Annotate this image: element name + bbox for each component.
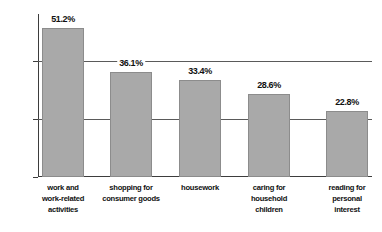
x-label-reading-line-3: interest: [316, 204, 378, 215]
bar-value-reading: 22.8%: [333, 97, 361, 107]
x-label-shopping-line-2: consumer goods: [93, 193, 169, 204]
bar-group-shopping[interactable]: 36.1%: [110, 72, 152, 177]
y-tick-mark-0: [33, 177, 38, 178]
x-label-reading-line-1: reading for: [316, 182, 378, 193]
bar-group-work[interactable]: 51.2%: [42, 28, 84, 177]
bar-value-housework: 33.4%: [186, 66, 214, 76]
bar-rect-work[interactable]: [42, 28, 84, 177]
x-label-work-line-2: work-related: [30, 193, 96, 204]
x-label-reading: reading for personal interest: [316, 182, 378, 215]
x-label-caring-line-3: children: [237, 204, 301, 215]
bar-group-housework[interactable]: 33.4%: [179, 80, 221, 177]
bar-rect-caring[interactable]: [248, 94, 290, 177]
bar-group-caring[interactable]: 28.6%: [248, 94, 290, 177]
bar-rect-reading[interactable]: [326, 111, 368, 177]
bars-layer: 51.2% 36.1% 33.4% 28.6% 22.8%: [38, 14, 372, 177]
bar-rect-housework[interactable]: [179, 80, 221, 177]
x-axis-category-labels: work and work-related activities shoppin…: [38, 182, 372, 230]
bar-group-reading[interactable]: 22.8%: [326, 111, 368, 177]
plot-area: 40% 20% 0% 51.2% 36.1% 33.4% 28.6%: [38, 14, 372, 177]
bar-value-caring: 28.6%: [255, 80, 283, 90]
x-label-work-line-1: work and: [30, 182, 96, 193]
x-label-caring: caring for household children: [237, 182, 301, 215]
x-label-shopping-line-1: shopping for: [93, 182, 169, 193]
x-label-work-line-3: activities: [30, 204, 96, 215]
bar-chart: 40% 20% 0% 51.2% 36.1% 33.4% 28.6%: [0, 0, 382, 232]
x-label-work: work and work-related activities: [30, 182, 96, 215]
x-label-shopping: shopping for consumer goods: [93, 182, 169, 204]
x-label-housework-line-1: housework: [170, 182, 230, 193]
x-label-caring-line-1: caring for: [237, 182, 301, 193]
x-label-caring-line-2: household: [237, 193, 301, 204]
bar-value-shopping: 36.1%: [117, 58, 145, 68]
bar-value-work: 51.2%: [49, 14, 77, 24]
x-label-housework: housework: [170, 182, 230, 193]
bar-rect-shopping[interactable]: [110, 72, 152, 177]
x-label-reading-line-2: personal: [316, 193, 378, 204]
